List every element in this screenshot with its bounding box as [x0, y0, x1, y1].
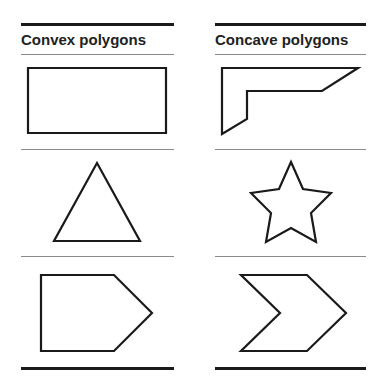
l-shape-concave [222, 68, 358, 134]
chevron-shape [241, 275, 346, 351]
polygon-shapes [0, 0, 383, 387]
pentagon-shape [41, 275, 152, 351]
triangle-shape [54, 163, 140, 241]
star-shape [251, 162, 331, 242]
rectangle-shape [28, 68, 166, 133]
